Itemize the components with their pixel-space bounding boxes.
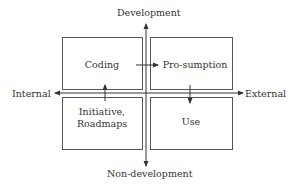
axis-label-development: Development — [117, 7, 181, 19]
axis-label-non-development: Non-development — [107, 168, 192, 180]
quadrant-label-initiative: Initiative, Roadmaps — [62, 106, 142, 130]
axis-label-external: External — [245, 88, 286, 100]
quadrant-label-initiative-line1: Initiative, — [62, 106, 142, 118]
quadrant-label-use: Use — [150, 116, 232, 128]
quadrant-label-coding: Coding — [62, 59, 142, 71]
axis-label-internal: Internal — [12, 88, 51, 100]
quadrant-label-prosumption: Pro-sumption — [160, 59, 230, 71]
quadrant-label-initiative-line2: Roadmaps — [62, 118, 142, 130]
